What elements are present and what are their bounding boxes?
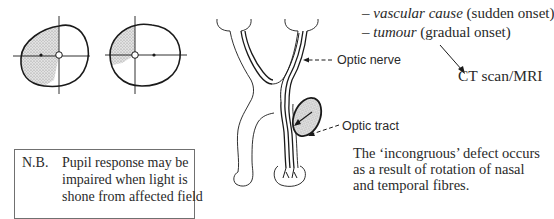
investigation-label: CT scan/MRI — [458, 67, 543, 85]
explanation-line-2: as a result of rotation of nasal — [353, 161, 540, 177]
note-line-3: shone from affected field — [62, 188, 203, 205]
cause-onset: (sudden onset) — [467, 5, 554, 21]
cause-dash: – — [362, 24, 370, 40]
note-line-1: Pupil response may be — [62, 154, 188, 171]
cause-item-tumour: – tumour (gradual onset) — [362, 23, 554, 42]
explanation-line-3: and temporal fibres. — [353, 177, 540, 193]
cause-onset: (gradual onset) — [420, 24, 510, 40]
cause-name: vascular cause — [373, 5, 463, 21]
cause-dash: – — [362, 5, 370, 21]
explanation-line-1: The ‘incongruous’ defect occurs — [353, 145, 540, 161]
right-visual-field — [105, 16, 187, 94]
explanation-text: The ‘incongruous’ defect occurs as a res… — [353, 145, 540, 193]
cause-name: tumour — [373, 24, 416, 40]
note-prefix: N.B. — [22, 154, 48, 171]
cause-list: – vascular cause (sudden onset) – tumour… — [362, 4, 554, 42]
note-line-2: impaired when light is — [62, 171, 188, 188]
note-box: N.B. Pupil response may be impaired when… — [14, 149, 195, 219]
left-visual-field — [13, 16, 90, 94]
optic-nerve-label: Optic nerve — [337, 53, 401, 67]
optic-tract-label: Optic tract — [342, 119, 399, 133]
lesion-mass — [287, 94, 326, 141]
cause-item-vascular: – vascular cause (sudden onset) — [362, 4, 554, 23]
